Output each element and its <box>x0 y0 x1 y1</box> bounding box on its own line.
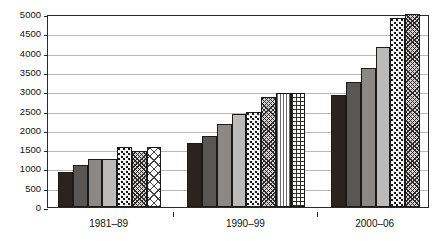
y-axis-tick-label: 4000 <box>20 49 41 59</box>
y-axis-tick-label: 3000 <box>20 87 41 97</box>
y-axis-tick-label: 0 <box>36 203 41 213</box>
bar <box>405 14 420 207</box>
bar <box>246 112 261 207</box>
y-axis-tick <box>44 209 48 210</box>
x-axis-tick <box>317 212 318 217</box>
bar <box>276 93 291 207</box>
bar <box>346 82 361 207</box>
bar <box>58 172 73 207</box>
y-axis-tick-labels: 0500100015002000250030003500400045005000 <box>0 0 41 241</box>
bar <box>187 143 202 207</box>
bar <box>102 159 117 207</box>
x-axis-tick-label: 2000–06 <box>355 218 394 229</box>
y-axis-tick-label: 2000 <box>20 126 41 136</box>
bar <box>361 68 376 207</box>
bar <box>117 147 132 207</box>
bar <box>88 159 103 207</box>
y-axis-tick-label: 2500 <box>20 107 41 117</box>
y-axis-tick-label: 1000 <box>20 164 41 174</box>
x-axis-tick-labels: 1981–891990–992000–06 <box>47 212 429 236</box>
y-axis-tick-label: 3500 <box>20 68 41 78</box>
y-axis-tick-label: 4500 <box>20 29 41 39</box>
bar <box>202 136 217 207</box>
x-axis-tick <box>173 212 174 217</box>
bars-layer <box>48 16 428 207</box>
y-axis-tick-label: 5000 <box>20 10 41 20</box>
bar <box>147 147 162 207</box>
bar <box>217 124 232 207</box>
bar <box>390 18 405 207</box>
x-axis-tick-label: 1990–99 <box>226 218 265 229</box>
bar <box>232 114 247 207</box>
bar <box>376 47 391 207</box>
bar <box>132 151 147 207</box>
bar <box>291 93 306 207</box>
plot-area <box>47 15 429 208</box>
bar <box>261 97 276 207</box>
x-axis-tick-label: 1981–89 <box>89 218 128 229</box>
bar <box>331 95 346 207</box>
bar <box>73 165 88 207</box>
y-axis-tick-label: 500 <box>25 184 41 194</box>
y-axis-tick-label: 1500 <box>20 145 41 155</box>
bar-chart: 0500100015002000250030003500400045005000… <box>0 0 445 241</box>
